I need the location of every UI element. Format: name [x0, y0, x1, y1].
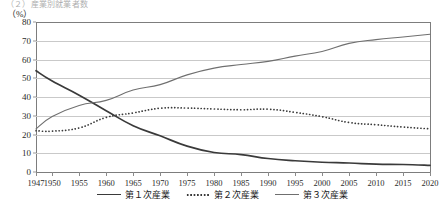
legend-label-primary: 第１次産業: [125, 188, 170, 201]
y-axis-tick-label: 60: [22, 55, 31, 64]
x-axis-tick-mark: [430, 172, 431, 176]
legend-item-tertiary: 第３次産業: [275, 188, 348, 201]
y-axis-tick-label: 50: [22, 74, 31, 83]
x-axis-tick-mark: [187, 172, 188, 176]
y-axis-tick-label: 30: [22, 111, 31, 120]
x-axis-tick-label: 1990: [260, 179, 277, 188]
plot-area: 01020304050607080 1947195019551960196519…: [36, 22, 430, 172]
x-axis-tick-mark: [376, 172, 377, 176]
x-axis-tick-mark: [133, 172, 134, 176]
x-axis-tick-mark: [349, 172, 350, 176]
x-axis-tick-label: 2015: [395, 179, 412, 188]
series-line-第１次産業: [36, 71, 430, 166]
y-axis-tick-label: 0: [27, 168, 32, 177]
x-axis-tick-mark: [52, 172, 53, 176]
x-axis-tick-mark: [160, 172, 161, 176]
x-axis-tick-label: 2005: [341, 179, 358, 188]
x-axis-tick-mark: [36, 172, 37, 176]
x-axis-tick-mark: [214, 172, 215, 176]
y-axis-tick-label: 10: [22, 149, 31, 158]
chart-legend: 第１次産業 第２次産業 第３次産業: [0, 188, 444, 201]
legend-line-icon-primary: [97, 191, 121, 199]
x-axis-tick-label: 1950: [44, 179, 61, 188]
x-axis-tick-mark: [241, 172, 242, 176]
plot-right-border: [430, 22, 431, 172]
y-axis-tick-label: 40: [22, 93, 31, 102]
x-axis-tick-label: 2000: [314, 179, 331, 188]
legend-line-icon-tertiary: [275, 191, 299, 199]
x-axis-tick-label: 1955: [71, 179, 88, 188]
x-axis-tick-label: 1965: [125, 179, 142, 188]
x-axis-tick-label: 1947: [28, 179, 45, 188]
legend-line-icon-secondary: [186, 191, 210, 199]
legend-label-tertiary: 第３次産業: [303, 188, 348, 201]
x-axis-tick-label: 1985: [233, 179, 250, 188]
x-axis-tick-mark: [295, 172, 296, 176]
y-axis-tick-label: 20: [22, 130, 31, 139]
x-axis-tick-label: 2010: [368, 179, 385, 188]
x-axis-tick-mark: [106, 172, 107, 176]
x-axis-tick-mark: [79, 172, 80, 176]
x-axis-tick-label: 1970: [152, 179, 169, 188]
x-axis-line: [36, 172, 430, 173]
industry-employment-share-chart: （２）産業別就業者数 （%） 01020304050607080 1947195…: [0, 0, 444, 210]
y-axis-tick-label: 70: [22, 36, 31, 45]
x-axis-tick-mark: [403, 172, 404, 176]
legend-item-secondary: 第２次産業: [186, 188, 259, 201]
series-line-第２次産業: [36, 108, 430, 132]
x-axis-tick-mark: [268, 172, 269, 176]
series-line-第３次産業: [36, 34, 430, 129]
y-axis-tick-label: 80: [22, 18, 31, 27]
x-axis-tick-mark: [322, 172, 323, 176]
series-layer: [36, 22, 430, 172]
legend-label-secondary: 第２次産業: [214, 188, 259, 201]
x-axis-tick-label: 1975: [179, 179, 196, 188]
x-axis-tick-label: 2020: [422, 179, 439, 188]
x-axis-tick-label: 1960: [98, 179, 115, 188]
legend-item-primary: 第１次産業: [97, 188, 170, 201]
x-axis-tick-label: 1980: [206, 179, 223, 188]
x-axis-tick-label: 1995: [287, 179, 304, 188]
